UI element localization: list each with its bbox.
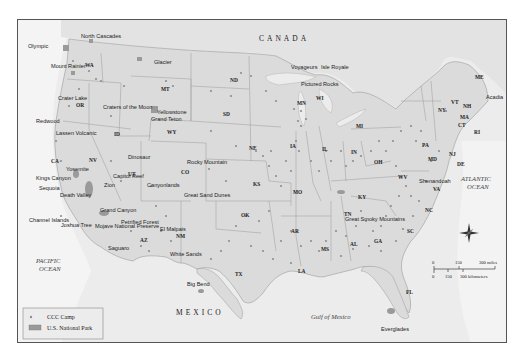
map-label: Crater Lake bbox=[58, 95, 87, 101]
map-label: Glacier bbox=[154, 59, 172, 65]
map-label: KY bbox=[358, 194, 366, 200]
map-label: NE bbox=[249, 145, 257, 151]
map-label: Shenandoah bbox=[419, 178, 451, 184]
map-label: 150 bbox=[455, 260, 463, 265]
label-pacific-2: OCEAN bbox=[39, 265, 61, 272]
us-map: CANADA MEXICO PACIFIC OCEAN ATLANTIC OCE… bbox=[18, 20, 507, 343]
map-label: OR bbox=[76, 102, 84, 108]
map-label: NC bbox=[425, 207, 433, 213]
map-label: Pictured Rocks bbox=[301, 81, 339, 87]
map-label: WV bbox=[398, 174, 407, 180]
map-label: ME bbox=[475, 74, 484, 80]
national-park-swatch-icon bbox=[29, 325, 41, 330]
map-label: NJ bbox=[449, 151, 456, 157]
map-label: Capitol Reef bbox=[113, 173, 144, 179]
map-label: LA bbox=[298, 268, 306, 274]
map-label: MD bbox=[428, 156, 437, 162]
map-label: Yellowstone bbox=[157, 109, 187, 115]
legend-national-park: U.S. National Park bbox=[47, 325, 92, 331]
legend-ccc-camp: CCC Camp bbox=[47, 314, 75, 320]
label-atlantic-1: ATLANTIC bbox=[460, 175, 491, 182]
legend: CCC Camp U.S. National Park bbox=[23, 308, 103, 339]
label-pacific-1: PACIFIC bbox=[35, 257, 61, 264]
map-label: MT bbox=[161, 86, 170, 92]
ccc-camp-dot-icon bbox=[30, 316, 32, 318]
map-label: 150 bbox=[445, 274, 453, 279]
map-label: Joshua Tree bbox=[61, 222, 92, 228]
map-label: 300 kilometers bbox=[460, 274, 488, 279]
map-label: Yosemite bbox=[66, 166, 89, 172]
map-label: CT bbox=[458, 122, 466, 128]
map-label: NY bbox=[438, 107, 446, 113]
map-label: Olympic bbox=[28, 43, 48, 49]
map-label: Rocky Mountain bbox=[187, 159, 227, 165]
map-label: Lassen Volcanic bbox=[56, 130, 97, 136]
map-label: Craters of the Moon bbox=[103, 104, 152, 110]
map-label: GA bbox=[374, 238, 382, 244]
map-label: Zion bbox=[104, 182, 115, 188]
map-label: MN bbox=[297, 100, 306, 106]
map-label: Saguaro bbox=[108, 245, 129, 251]
map-label: Grand Teton bbox=[151, 116, 182, 122]
map-label: MA bbox=[460, 114, 469, 120]
map-label: CA bbox=[51, 158, 59, 164]
map-label: WY bbox=[167, 129, 176, 135]
map-label: North Cascades bbox=[81, 33, 121, 39]
map-label: White Sands bbox=[170, 251, 202, 257]
map-label: WI bbox=[316, 95, 324, 101]
map-label: Voyageurs bbox=[291, 64, 318, 70]
map-label: ID bbox=[114, 131, 120, 137]
map-label: Acadia bbox=[486, 94, 504, 100]
label-mexico: MEXICO bbox=[176, 308, 224, 317]
label-canada: CANADA bbox=[259, 34, 309, 43]
map-frame: CANADA MEXICO PACIFIC OCEAN ATLANTIC OCE… bbox=[17, 19, 507, 343]
map-label: Kings Canyon bbox=[36, 175, 71, 181]
map-label: AZ bbox=[140, 237, 148, 243]
map-label: IL bbox=[322, 146, 328, 152]
label-atlantic-2: OCEAN bbox=[467, 183, 489, 190]
map-label: OH bbox=[374, 159, 383, 165]
map-label: El Malpais bbox=[160, 226, 186, 232]
map-label: VT bbox=[451, 99, 459, 105]
map-label: Redwood bbox=[36, 118, 60, 124]
map-label: Great Sand Dunes bbox=[184, 192, 231, 198]
map-label: SC bbox=[407, 228, 414, 234]
map-label: CO bbox=[181, 169, 189, 175]
map-label: Dinosaur bbox=[128, 154, 151, 160]
map-label: Isle Royale bbox=[321, 64, 349, 70]
map-label: IA bbox=[290, 143, 296, 149]
map-label: Great Smoky Mountains bbox=[345, 216, 405, 222]
map-label: DE bbox=[457, 161, 465, 167]
map-label: AR bbox=[291, 228, 299, 234]
map-label: MS bbox=[321, 246, 329, 252]
map-label: 300 miles bbox=[479, 260, 497, 265]
map-label: FL bbox=[406, 289, 413, 295]
map-label: Everglades bbox=[381, 326, 409, 332]
map-label: Death Valley bbox=[60, 192, 92, 198]
map-label: NM bbox=[176, 233, 185, 239]
map-label: OK bbox=[241, 212, 250, 218]
map-label: Canyonlands bbox=[147, 182, 180, 188]
map-label: IN bbox=[351, 149, 357, 155]
map-label: MI bbox=[356, 123, 363, 129]
map-label: VA bbox=[433, 186, 440, 192]
map-label: AL bbox=[350, 241, 358, 247]
map-label: MO bbox=[293, 189, 302, 195]
map-label: SD bbox=[223, 111, 230, 117]
map-label: TX bbox=[235, 271, 243, 277]
map-label: KS bbox=[253, 181, 260, 187]
map-label: Grand Canyon bbox=[100, 207, 136, 213]
map-label: Mount Rainier bbox=[51, 63, 86, 69]
map-label: Big Bend bbox=[187, 281, 210, 287]
map-label: NV bbox=[89, 157, 97, 163]
map-label: ND bbox=[230, 77, 238, 83]
label-gulf: Gulf of Mexico bbox=[311, 313, 351, 320]
map-label: Sequoia bbox=[39, 185, 60, 191]
map-label: RI bbox=[474, 129, 480, 135]
map-label: WA bbox=[85, 62, 94, 68]
map-label: Petrified Forest bbox=[121, 219, 159, 225]
map-label: PA bbox=[422, 142, 429, 148]
map-label: NH bbox=[463, 103, 472, 109]
